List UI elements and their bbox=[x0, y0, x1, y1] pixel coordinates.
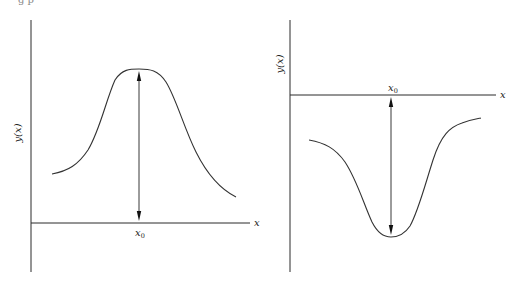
panel-minimum: xy(x)x0 bbox=[274, 20, 506, 272]
panel-maximum: xy(x)x0 bbox=[12, 20, 260, 272]
y-axis-label: y(x) bbox=[274, 54, 285, 74]
arrow-down-icon bbox=[137, 211, 141, 221]
arrow-up-icon bbox=[137, 71, 141, 81]
x0-label: x0 bbox=[388, 82, 398, 95]
arrow-up-icon bbox=[389, 97, 393, 107]
curve bbox=[52, 69, 236, 197]
x-axis-label: x bbox=[254, 217, 260, 228]
x0-label: x0 bbox=[135, 227, 145, 240]
curve bbox=[309, 118, 481, 237]
figure: xy(x)x0xy(x)x0 bbox=[0, 0, 521, 287]
x-axis-label: x bbox=[500, 89, 506, 100]
y-axis-label: y(x) bbox=[12, 123, 23, 143]
arrow-down-icon bbox=[389, 225, 393, 235]
